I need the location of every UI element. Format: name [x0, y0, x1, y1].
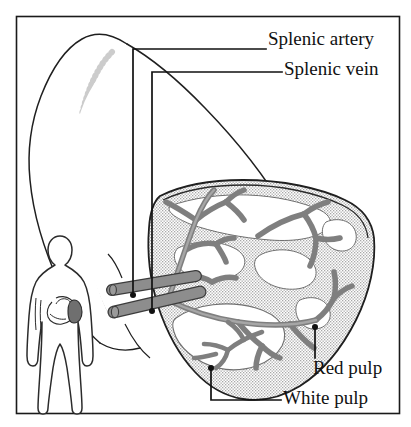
label-splenic-vein: Splenic vein	[284, 58, 379, 79]
spleen-diagram: Splenic artery Splenic vein Red pulp Whi…	[0, 0, 411, 427]
body-spleen	[68, 300, 82, 323]
dot-splenic-artery	[130, 292, 136, 298]
dot-white-pulp	[208, 365, 214, 371]
dot-red-pulp	[312, 324, 318, 330]
label-splenic-artery: Splenic artery	[268, 28, 375, 49]
dot-splenic-vein	[149, 308, 155, 314]
label-white-pulp: White pulp	[283, 387, 368, 408]
figure-panel: Splenic artery Splenic vein Red pulp Whi…	[0, 0, 411, 427]
label-red-pulp: Red pulp	[313, 357, 382, 378]
